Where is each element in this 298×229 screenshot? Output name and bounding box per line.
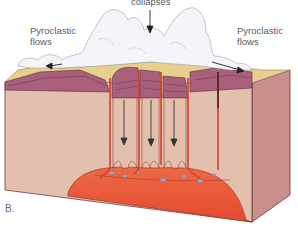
pyroclastic-right-line2: flows: [237, 37, 283, 48]
collapses-label: collapses: [131, 0, 171, 8]
panel-label: B.: [5, 204, 14, 215]
pyroclastic-flows-right-label: Pyroclastic flows: [237, 26, 283, 47]
pyroclastic-left-line1: Pyroclastic: [30, 26, 76, 37]
pyroclastic-flows-left-label: Pyroclastic flows: [30, 26, 76, 47]
pyroclastic-left-line2: flows: [30, 37, 76, 48]
pyroclastic-right-line1: Pyroclastic: [237, 26, 283, 37]
crustal-block-side: [252, 70, 290, 222]
